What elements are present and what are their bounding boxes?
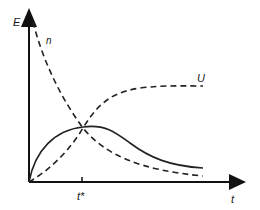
n-curve-label: n [46, 35, 52, 46]
chart-svg: E t t* n U [0, 0, 260, 210]
y-axis-label: E [13, 16, 21, 28]
u-curve-label: U [197, 72, 205, 84]
y-axis-arrow-icon [21, 8, 37, 27]
curve-n [33, 22, 203, 176]
x-axis-arrow-icon [229, 174, 246, 190]
x-axis-label: t [231, 193, 235, 205]
t-star-label: t* [77, 190, 85, 202]
